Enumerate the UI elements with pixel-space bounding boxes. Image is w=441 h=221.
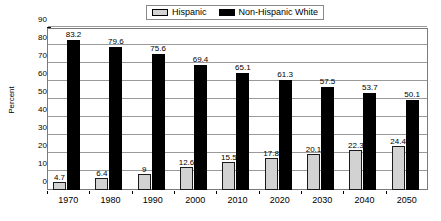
bar-value-label: 75.6 bbox=[150, 45, 166, 53]
bar-hispanic: 17.8 bbox=[265, 158, 278, 190]
legend-label-hispanic: Hispanic bbox=[172, 8, 207, 17]
bar-non-hispanic-white: 65.1 bbox=[236, 73, 249, 190]
bar-chart: Hispanic Non-Hispanic White Percent 9080… bbox=[0, 0, 441, 221]
bar-group: 4.783.2 bbox=[47, 28, 89, 190]
bar-value-label: 6.4 bbox=[96, 170, 107, 178]
bar-hispanic: 15.5 bbox=[222, 162, 235, 190]
x-axis-tick-mark bbox=[343, 191, 344, 194]
bar-hispanic: 24.4 bbox=[392, 146, 405, 190]
y-axis-tick-label: 40 bbox=[25, 106, 47, 114]
bar-value-label: 57.5 bbox=[320, 78, 336, 86]
x-axis: 197019801990200020102020203020402050 bbox=[47, 191, 428, 211]
gridline bbox=[48, 26, 427, 27]
y-axis: 9080706050403020100 bbox=[19, 28, 47, 190]
bar-value-label: 61.3 bbox=[277, 71, 293, 79]
bar-value-label: 15.5 bbox=[221, 154, 237, 162]
bar-non-hispanic-white: 61.3 bbox=[279, 80, 292, 190]
bar-non-hispanic-white: 69.4 bbox=[194, 65, 207, 190]
y-axis-tick-label: 60 bbox=[25, 70, 47, 78]
bar-value-label: 69.4 bbox=[193, 56, 209, 64]
legend-label-non-hispanic-white: Non-Hispanic White bbox=[239, 8, 319, 17]
y-axis-tick-label: 30 bbox=[25, 124, 47, 132]
bar-value-label: 17.8 bbox=[263, 150, 279, 158]
bar-group: 6.479.6 bbox=[89, 28, 131, 190]
bar-value-label: 53.7 bbox=[362, 84, 378, 92]
y-axis-tick-label: 80 bbox=[25, 34, 47, 42]
x-axis-tick-label: 1980 bbox=[90, 196, 132, 205]
x-axis-tick-label: 2030 bbox=[301, 196, 343, 205]
x-axis-tick-label: 2010 bbox=[217, 196, 259, 205]
x-axis-tick-mark bbox=[259, 191, 260, 194]
bar-value-label: 50.1 bbox=[404, 91, 420, 99]
x-axis-tick-label: 1970 bbox=[47, 196, 89, 205]
y-axis-tick-label: 70 bbox=[25, 52, 47, 60]
y-axis-tick-label: 50 bbox=[25, 88, 47, 96]
bar-non-hispanic-white: 57.5 bbox=[321, 87, 334, 191]
y-axis-tick-label: 90 bbox=[25, 16, 47, 24]
x-axis-tick-label: 1990 bbox=[132, 196, 174, 205]
x-axis-tick-mark bbox=[386, 191, 387, 194]
bar-value-label: 79.6 bbox=[108, 38, 124, 46]
y-axis-label: Percent bbox=[8, 70, 16, 130]
bar-value-label: 20.1 bbox=[306, 146, 322, 154]
bar-value-label: 22.3 bbox=[348, 142, 364, 150]
bar-hispanic: 6.4 bbox=[95, 178, 108, 190]
x-axis-tick-label: 2000 bbox=[174, 196, 216, 205]
bar-hispanic: 9 bbox=[138, 174, 151, 190]
x-axis-tick-mark bbox=[89, 191, 90, 194]
bar-value-label: 83.2 bbox=[66, 31, 82, 39]
bar-group: 17.861.3 bbox=[259, 28, 301, 190]
bar-value-label: 24.4 bbox=[390, 138, 406, 146]
bar-value-label: 12.6 bbox=[179, 159, 195, 167]
legend-item-hispanic: Hispanic bbox=[152, 8, 207, 17]
x-axis-tick-mark bbox=[301, 191, 302, 194]
bar-group: 20.157.5 bbox=[301, 28, 343, 190]
bar-group: 24.450.1 bbox=[386, 28, 428, 190]
bar-groups: 4.783.26.479.6975.612.669.415.565.117.86… bbox=[47, 28, 428, 190]
x-axis-tick-label: 2040 bbox=[344, 196, 386, 205]
bar-non-hispanic-white: 50.1 bbox=[406, 100, 419, 190]
x-axis-tick-mark bbox=[174, 191, 175, 194]
x-axis-tick-mark bbox=[216, 191, 217, 194]
y-axis-tick-label: 10 bbox=[25, 160, 47, 168]
bar-non-hispanic-white: 53.7 bbox=[363, 93, 376, 190]
bar-hispanic: 4.7 bbox=[53, 182, 66, 190]
y-axis-tick-label: 20 bbox=[25, 142, 47, 150]
bar-hispanic: 22.3 bbox=[349, 150, 362, 190]
x-axis-tick-mark bbox=[132, 191, 133, 194]
bar-non-hispanic-white: 83.2 bbox=[67, 40, 80, 190]
bar-group: 12.669.4 bbox=[174, 28, 216, 190]
y-axis-tick-label: 0 bbox=[25, 178, 47, 186]
x-axis-tick-label: 2050 bbox=[386, 196, 428, 205]
bar-group: 975.6 bbox=[132, 28, 174, 190]
bar-value-label: 9 bbox=[142, 166, 146, 174]
bar-non-hispanic-white: 79.6 bbox=[109, 47, 122, 190]
bar-non-hispanic-white: 75.6 bbox=[152, 54, 165, 190]
bar-hispanic: 20.1 bbox=[307, 154, 320, 190]
bar-group: 22.353.7 bbox=[343, 28, 385, 190]
x-axis-tick-label: 2020 bbox=[259, 196, 301, 205]
legend-item-non-hispanic-white: Non-Hispanic White bbox=[219, 8, 319, 17]
x-axis-tick-mark bbox=[47, 191, 48, 194]
chart-legend: Hispanic Non-Hispanic White bbox=[146, 5, 324, 20]
bar-hispanic: 12.6 bbox=[180, 167, 193, 190]
bar-value-label: 4.7 bbox=[54, 174, 65, 182]
legend-swatch-non-hispanic-white bbox=[219, 9, 235, 16]
bar-group: 15.565.1 bbox=[216, 28, 258, 190]
bar-value-label: 65.1 bbox=[235, 64, 251, 72]
legend-swatch-hispanic bbox=[152, 9, 168, 16]
